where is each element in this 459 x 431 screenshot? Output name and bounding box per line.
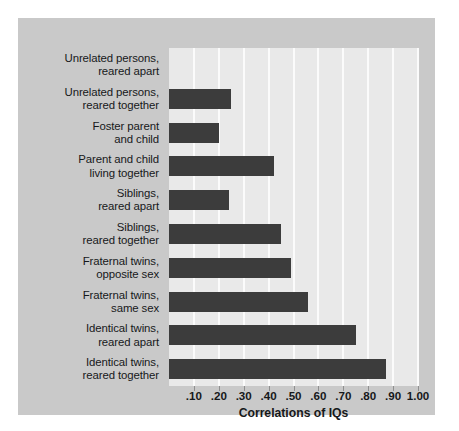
x-axis-tick-label: .20: [211, 389, 227, 402]
category-label: Fraternal twins,same sex: [34, 289, 159, 315]
category-label-line2: reared together: [34, 369, 159, 382]
category-label: Identical twins,reared together: [34, 356, 159, 382]
bar-row: [169, 82, 418, 116]
x-axis-title: Correlations of IQs: [169, 406, 418, 420]
bar: [169, 359, 386, 379]
category-label-line1: Unrelated persons,: [34, 52, 159, 65]
bars-layer: [169, 48, 418, 386]
category-axis-labels: Unrelated persons,reared apartUnrelated …: [36, 48, 165, 386]
bar: [169, 258, 291, 278]
category-label: Siblings,reared together: [34, 221, 159, 247]
bar-row: [169, 285, 418, 319]
bar: [169, 325, 356, 345]
category-label-line2: reared together: [34, 99, 159, 112]
x-axis-tick-label: .50: [285, 389, 301, 402]
category-label-line2: opposite sex: [34, 268, 159, 281]
x-axis-tick-label: .30: [236, 389, 252, 402]
category-label-line1: Identical twins,: [34, 356, 159, 369]
x-axis-tick-label: .60: [310, 389, 326, 402]
bar-row: [169, 48, 418, 82]
category-label-line2: same sex: [34, 302, 159, 315]
bar: [169, 89, 231, 109]
bar-row: [169, 352, 418, 386]
category-label-line1: Fraternal twins,: [34, 289, 159, 302]
x-axis-tick-label: .70: [335, 389, 351, 402]
x-axis-tick-label: .80: [360, 389, 376, 402]
category-label-line2: reared together: [34, 234, 159, 247]
bar-row: [169, 116, 418, 150]
x-axis-tick-label: 1.00: [407, 389, 430, 402]
category-label-line1: Siblings,: [34, 221, 159, 234]
category-label-line1: Siblings,: [34, 187, 159, 200]
x-axis-tick-label: .10: [186, 389, 202, 402]
category-label-line1: Fraternal twins,: [34, 255, 159, 268]
category-label-line1: Unrelated persons,: [34, 86, 159, 99]
x-axis-tick-labels: .10.20.30.40.50.60.70.80.901.00: [169, 389, 418, 405]
category-label-line2: and child: [34, 133, 159, 146]
bar-row: [169, 149, 418, 183]
category-label-line2: reared apart: [34, 65, 159, 78]
plot-area: [169, 48, 418, 386]
chart-panel: Unrelated persons,reared apartUnrelated …: [18, 18, 435, 415]
category-label: Siblings,reared apart: [34, 187, 159, 213]
bar: [169, 123, 219, 143]
x-axis-tick-label: .40: [261, 389, 277, 402]
category-label-line1: Identical twins,: [34, 322, 159, 335]
category-label: Identical twins,reared apart: [34, 322, 159, 348]
bar-row: [169, 318, 418, 352]
iq-correlation-bar-chart-figure: Unrelated persons,reared apartUnrelated …: [0, 0, 459, 431]
category-label: Fraternal twins,opposite sex: [34, 255, 159, 281]
bar: [169, 156, 274, 176]
category-label-line1: Parent and child: [34, 153, 159, 166]
category-label: Parent and childliving together: [34, 153, 159, 179]
bar: [169, 292, 308, 312]
bar-row: [169, 217, 418, 251]
bar: [169, 190, 229, 210]
bar-row: [169, 183, 418, 217]
category-label: Unrelated persons,reared apart: [34, 52, 159, 78]
category-label: Foster parentand child: [34, 120, 159, 146]
category-label-line2: living together: [34, 167, 159, 180]
x-axis-tick-label: .90: [385, 389, 401, 402]
bar-row: [169, 251, 418, 285]
bar: [169, 224, 281, 244]
category-label-line1: Foster parent: [34, 120, 159, 133]
category-label-line2: reared apart: [34, 200, 159, 213]
category-label-line2: reared apart: [34, 336, 159, 349]
category-label: Unrelated persons,reared together: [34, 86, 159, 112]
